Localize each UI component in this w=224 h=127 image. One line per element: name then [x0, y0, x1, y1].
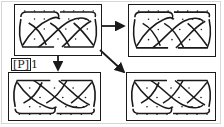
celtic-knot-icon: [9, 73, 100, 120]
knot-panel-result-diagonal: [126, 72, 216, 121]
label-suffix-text: 1: [31, 58, 38, 71]
knot-panel-source: [14, 4, 102, 56]
knot-panel-result-down: [8, 72, 101, 121]
celtic-knot-icon: [129, 5, 215, 56]
pattern-label: [P]1: [11, 58, 38, 71]
label-bracket-text: P: [17, 58, 24, 71]
celtic-knot-icon: [127, 73, 215, 120]
celtic-knot-icon: [15, 5, 101, 55]
knot-panel-result-right: [128, 4, 216, 57]
